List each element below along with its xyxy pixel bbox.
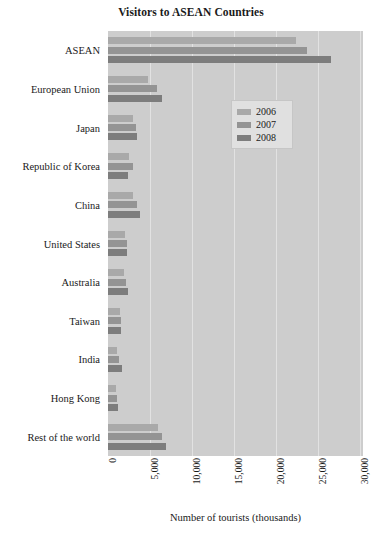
y-axis-label: Taiwan — [69, 315, 100, 326]
legend-label: 2008 — [256, 133, 276, 143]
y-axis-label: Rest of the world — [27, 431, 100, 442]
bar — [108, 288, 128, 295]
y-axis-label: Japan — [76, 122, 100, 133]
y-axis-label: European Union — [31, 83, 100, 94]
bar — [108, 249, 127, 256]
bar — [108, 433, 162, 440]
x-axis-tick-label: 30,000 — [360, 458, 370, 484]
bar — [108, 47, 307, 54]
bar — [108, 201, 137, 208]
legend-item-2006: 2006 — [237, 105, 287, 118]
bar-groups — [108, 31, 363, 456]
chart-container: Visitors to ASEAN Countries ASEANEuropea… — [0, 0, 382, 537]
bar-group — [108, 417, 363, 456]
bar — [108, 85, 157, 92]
bar-group — [108, 263, 363, 302]
y-axis-label: United States — [44, 238, 100, 249]
legend-item-2007: 2007 — [237, 118, 287, 131]
y-axis-label: China — [75, 199, 100, 210]
bar — [108, 356, 119, 363]
bar-group — [108, 224, 363, 263]
y-axis-label: India — [78, 354, 100, 365]
bar — [108, 308, 120, 315]
bar — [108, 424, 158, 431]
bar — [108, 404, 118, 411]
bar — [108, 211, 140, 218]
bar — [108, 327, 121, 334]
bar-group — [108, 147, 363, 186]
x-axis-tick-label: 25,000 — [318, 458, 328, 484]
legend-label: 2006 — [256, 107, 276, 117]
bar — [108, 76, 148, 83]
y-axis-label: Hong Kong — [51, 393, 100, 404]
bar — [108, 153, 129, 160]
bar — [108, 95, 162, 102]
x-axis-tick-label: 20,000 — [276, 458, 286, 484]
x-axis-tick-labels: 05,00010,00015,00020,00025,00030,000 — [108, 458, 363, 510]
bar — [108, 163, 133, 170]
x-axis-title: Number of tourists (thousands) — [108, 512, 363, 523]
legend-item-2008: 2008 — [237, 131, 287, 144]
bar — [108, 56, 331, 63]
bar — [108, 347, 117, 354]
bar — [108, 115, 133, 122]
chart-title: Visitors to ASEAN Countries — [0, 6, 382, 18]
legend-label: 2007 — [256, 120, 276, 130]
bar-group — [108, 31, 363, 70]
bar — [108, 240, 127, 247]
bar — [108, 269, 124, 276]
bar-group — [108, 340, 363, 379]
bar — [108, 133, 137, 140]
bar — [108, 317, 121, 324]
bar — [108, 124, 136, 131]
bar — [108, 365, 122, 372]
legend-swatch-icon — [237, 109, 251, 115]
bar-group — [108, 186, 363, 225]
x-axis-tick-label: 5,000 — [150, 458, 160, 479]
x-axis-tick-label: 0 — [108, 458, 118, 463]
bar — [108, 231, 125, 238]
legend-swatch-icon — [237, 135, 251, 141]
bar-group — [108, 301, 363, 340]
bar — [108, 192, 133, 199]
bar — [108, 395, 117, 402]
y-axis-label: Republic of Korea — [22, 161, 100, 172]
plot-area — [108, 31, 363, 456]
x-axis-tick-label: 10,000 — [192, 458, 202, 484]
x-axis-tick-label: 15,000 — [234, 458, 244, 484]
y-axis-labels: ASEANEuropean UnionJapanRepublic of Kore… — [0, 31, 104, 456]
y-axis-label: ASEAN — [65, 45, 100, 56]
legend-swatch-icon — [237, 122, 251, 128]
bar — [108, 172, 128, 179]
bar — [108, 37, 296, 44]
bar — [108, 279, 126, 286]
legend: 2006 2007 2008 — [231, 100, 293, 149]
y-axis-label: Australia — [62, 277, 101, 288]
bar-group — [108, 379, 363, 418]
bar — [108, 443, 166, 450]
bar — [108, 385, 116, 392]
